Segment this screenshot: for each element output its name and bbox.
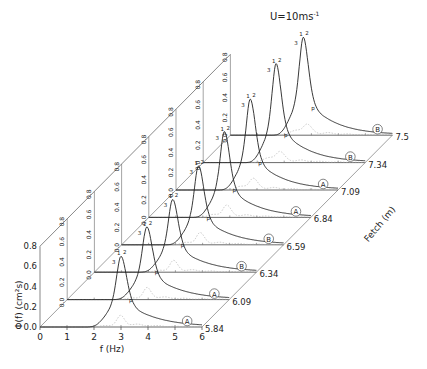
svg-text:3: 3 xyxy=(215,135,219,141)
svg-text:0.4: 0.4 xyxy=(140,175,147,185)
fetch-label: 7.34 xyxy=(368,160,387,170)
svg-text:0.6: 0.6 xyxy=(58,237,65,247)
fetch-label: 6.34 xyxy=(259,269,278,279)
svg-text:0.8: 0.8 xyxy=(221,52,228,62)
svg-text:2: 2 xyxy=(252,92,256,98)
svg-text:2: 2 xyxy=(123,249,127,255)
svg-text:0.2: 0.2 xyxy=(140,195,147,205)
svg-text:p: p xyxy=(284,132,288,139)
y-tick: 0.2 xyxy=(23,302,37,312)
svg-text:p: p xyxy=(129,297,133,304)
y-axis-label: Φ(f) (cm²s) xyxy=(14,280,24,329)
svg-text:3: 3 xyxy=(267,67,271,73)
svg-text:0.4: 0.4 xyxy=(167,147,174,157)
chart-canvas: 0.00.20.40.60.8123pB7.50.00.20.40.60.812… xyxy=(0,0,427,369)
svg-text:p: p xyxy=(181,242,185,249)
svg-text:2: 2 xyxy=(149,220,153,226)
svg-text:0.6: 0.6 xyxy=(194,100,201,110)
svg-text:0.2: 0.2 xyxy=(58,277,65,287)
svg-text:2: 2 xyxy=(278,57,282,63)
svg-text:0.4: 0.4 xyxy=(194,120,201,130)
fetch-label: 6.09 xyxy=(232,297,251,307)
svg-text:1: 1 xyxy=(220,126,224,132)
fetch-label: 5.84 xyxy=(205,324,224,334)
svg-text:p: p xyxy=(311,105,315,112)
svg-text:0.8: 0.8 xyxy=(194,80,201,90)
x-tick: 1 xyxy=(64,332,70,342)
svg-text:A: A xyxy=(321,181,326,189)
svg-text:0.2: 0.2 xyxy=(194,140,201,150)
svg-text:B: B xyxy=(348,154,353,162)
x-tick: 4 xyxy=(145,332,151,342)
svg-text:2: 2 xyxy=(305,30,309,36)
svg-text:0.8: 0.8 xyxy=(85,189,92,199)
svg-text:0.2: 0.2 xyxy=(85,250,92,260)
svg-text:0.8: 0.8 xyxy=(113,162,120,172)
y-tick: 0.6 xyxy=(23,261,37,271)
y-tick: 0.0 xyxy=(23,322,37,332)
svg-text:B: B xyxy=(375,126,380,134)
svg-text:B: B xyxy=(266,236,271,244)
svg-text:1: 1 xyxy=(299,31,303,37)
svg-text:p: p xyxy=(155,269,159,276)
svg-text:1: 1 xyxy=(272,58,276,64)
svg-text:0.6: 0.6 xyxy=(140,155,147,165)
svg-text:0.4: 0.4 xyxy=(113,202,120,212)
svg-text:A: A xyxy=(212,291,217,299)
chart-title: U=10ms-1 xyxy=(270,10,320,22)
svg-text:2: 2 xyxy=(201,159,205,165)
svg-text:0.8: 0.8 xyxy=(58,217,65,227)
fetch-label: 7.5 xyxy=(395,132,409,142)
svg-text:1: 1 xyxy=(195,160,199,166)
svg-text:0.2: 0.2 xyxy=(221,113,228,123)
svg-text:A: A xyxy=(185,318,190,326)
x-tick: 6 xyxy=(199,332,205,342)
x-tick: 0 xyxy=(37,332,43,342)
svg-text:0.4: 0.4 xyxy=(58,257,65,267)
svg-text:p: p xyxy=(258,160,262,167)
svg-text:3: 3 xyxy=(190,169,194,175)
svg-text:2: 2 xyxy=(175,192,179,198)
svg-text:0.0: 0.0 xyxy=(85,270,92,280)
svg-text:0.6: 0.6 xyxy=(167,127,174,137)
svg-text:p: p xyxy=(207,215,211,222)
x-tick: 3 xyxy=(118,332,124,342)
svg-text:2: 2 xyxy=(226,125,230,131)
svg-text:0.6: 0.6 xyxy=(221,72,228,82)
svg-text:0.8: 0.8 xyxy=(140,134,147,144)
svg-text:3: 3 xyxy=(241,102,245,108)
svg-text:3: 3 xyxy=(138,230,142,236)
svg-text:1: 1 xyxy=(169,193,173,199)
fetch-label: 6.84 xyxy=(314,214,333,224)
fetch-label: 6.59 xyxy=(287,242,306,252)
svg-text:0.2: 0.2 xyxy=(167,168,174,178)
svg-text:0.4: 0.4 xyxy=(221,93,228,103)
svg-text:0.6: 0.6 xyxy=(85,209,92,219)
svg-text:3: 3 xyxy=(294,40,298,46)
svg-text:B: B xyxy=(239,263,244,271)
fetch-planes: 0.00.20.40.60.8123pB7.50.00.20.40.60.812… xyxy=(40,30,409,334)
svg-text:0.0: 0.0 xyxy=(58,297,65,307)
x-tick: 2 xyxy=(91,332,97,342)
svg-text:1: 1 xyxy=(143,221,147,227)
svg-text:0.2: 0.2 xyxy=(113,222,120,232)
fetch-axis-label: Fetch (m) xyxy=(362,204,397,243)
svg-text:3: 3 xyxy=(112,259,116,265)
fetch-label: 7.09 xyxy=(341,187,360,197)
waterfall-spectrum-chart: 0.00.20.40.60.8123pB7.50.00.20.40.60.812… xyxy=(0,0,427,369)
svg-text:1: 1 xyxy=(246,93,250,99)
svg-text:1: 1 xyxy=(117,250,121,256)
y-tick: 0.4 xyxy=(23,282,37,292)
svg-text:0.8: 0.8 xyxy=(167,107,174,117)
svg-text:0.6: 0.6 xyxy=(113,182,120,192)
y-tick: 0.8 xyxy=(23,241,37,251)
svg-text:A: A xyxy=(294,208,299,216)
x-axis-label: f (Hz) xyxy=(100,344,125,354)
svg-text:0.4: 0.4 xyxy=(85,230,92,240)
x-tick: 5 xyxy=(172,332,178,342)
svg-text:p: p xyxy=(232,187,236,194)
svg-text:3: 3 xyxy=(164,202,168,208)
